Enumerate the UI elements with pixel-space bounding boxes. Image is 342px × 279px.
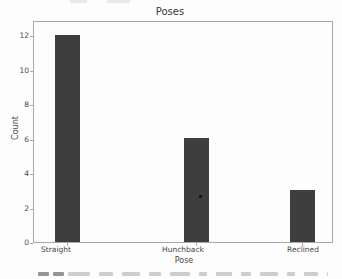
cropped-text-artifact — [70, 0, 87, 3]
y-tick-label: 6 — [0, 136, 29, 144]
y-tick-label: 4 — [0, 170, 29, 178]
bar-chart-figure: Poses Count 024681012 Straight Hunchback… — [0, 0, 342, 279]
bar-straight — [55, 35, 80, 242]
y-tick-mark — [30, 105, 33, 106]
y-tick-label: 0 — [0, 239, 29, 247]
cropped-text-artifact — [107, 0, 130, 3]
bar-reclined — [290, 190, 315, 242]
y-tick-mark — [30, 209, 33, 210]
y-tick-mark — [30, 243, 33, 244]
y-tick-mark — [30, 71, 33, 72]
y-tick-label: 8 — [0, 101, 29, 109]
cropped-caption-artifact — [38, 272, 328, 277]
x-tick-label-straight: Straight — [41, 245, 71, 254]
y-tick-mark — [30, 140, 33, 141]
x-axis-label: Pose — [175, 256, 194, 265]
speck-artifact — [199, 195, 202, 198]
y-tick-label: 2 — [0, 205, 29, 213]
y-tick-label: 12 — [0, 32, 29, 40]
y-tick-mark — [30, 36, 33, 37]
y-tick-label: 10 — [0, 67, 29, 75]
plot-area — [33, 21, 333, 243]
x-tick-label-hunchback: Hunchback — [162, 245, 204, 254]
bar-hunchback — [184, 138, 209, 242]
x-tick-label-reclined: Reclined — [287, 245, 319, 254]
y-tick-mark — [30, 174, 33, 175]
chart-title: Poses — [20, 6, 320, 17]
